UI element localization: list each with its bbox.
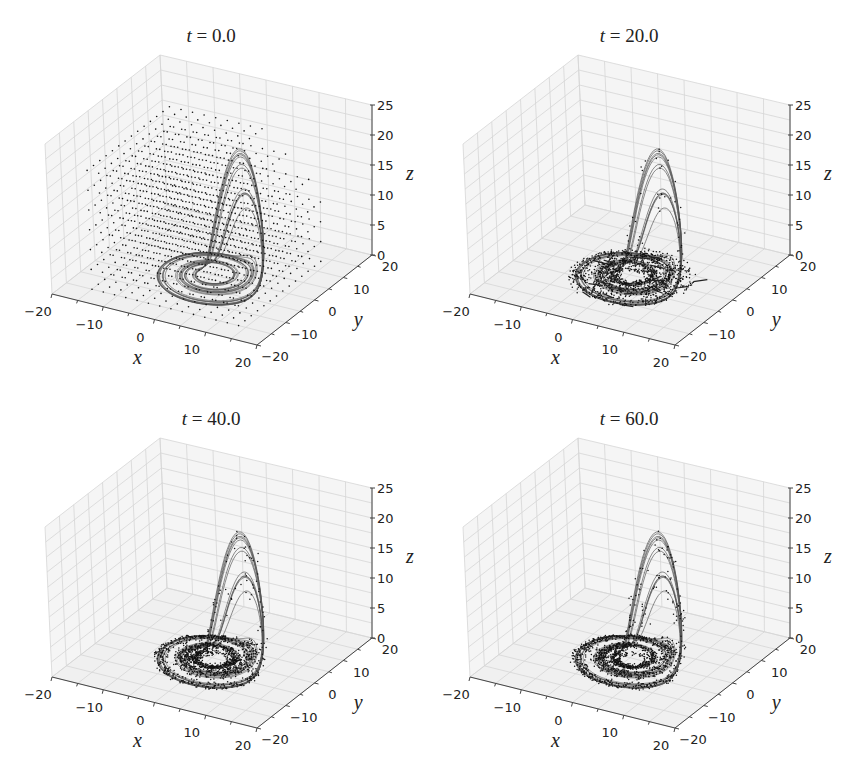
particle-point — [676, 292, 678, 294]
particle-point — [163, 650, 165, 652]
particle-point — [587, 676, 589, 678]
particle-point — [617, 290, 619, 292]
particle-point — [667, 646, 669, 648]
particle-point — [198, 646, 200, 648]
particle-point — [662, 649, 664, 651]
particle-point — [216, 287, 218, 289]
particle-point — [236, 220, 238, 222]
x-minor-tick — [495, 300, 496, 303]
particle-point — [586, 643, 588, 645]
x-tick-mark — [256, 728, 257, 732]
particle-point — [652, 653, 654, 655]
particle-point — [670, 577, 672, 579]
particle-point — [181, 219, 183, 221]
particle-point — [610, 651, 612, 653]
particle-point — [200, 152, 202, 154]
particle-point — [158, 175, 160, 177]
particle-point — [190, 668, 192, 670]
particle-point — [187, 194, 189, 196]
particle-point — [172, 295, 174, 297]
particle-point — [673, 268, 675, 270]
particle-point — [660, 643, 662, 645]
particle-point — [179, 173, 181, 175]
particle-point — [226, 204, 228, 206]
particle-point — [157, 226, 159, 228]
particle-point — [160, 662, 162, 664]
particle-point — [655, 643, 657, 645]
particle-point — [233, 297, 235, 299]
particle-point — [608, 669, 610, 671]
z-tick-label: 5 — [377, 601, 385, 616]
particle-point — [214, 240, 216, 242]
particle-point — [233, 219, 235, 221]
particle-point — [188, 651, 190, 653]
particle-point — [582, 267, 584, 269]
particle-point — [183, 220, 185, 222]
particle-point — [221, 635, 223, 637]
particle-point — [206, 672, 208, 674]
particle-point — [215, 640, 217, 642]
particle-point — [266, 168, 268, 170]
particle-point — [192, 657, 194, 659]
particle-point — [183, 643, 185, 645]
particle-point — [630, 288, 632, 290]
particle-point — [207, 643, 209, 645]
particle-point — [639, 265, 641, 267]
particle-point — [162, 228, 164, 230]
particle-point — [641, 293, 643, 295]
particle-point — [205, 649, 207, 651]
particle-point — [613, 666, 615, 668]
particle-point — [620, 661, 622, 663]
particle-point — [648, 291, 650, 293]
particle-point — [214, 234, 216, 236]
particle-point — [232, 278, 234, 280]
particle-point — [268, 215, 270, 217]
particle-point — [207, 652, 209, 654]
particle-point — [651, 660, 653, 662]
particle-point — [251, 237, 253, 239]
particle-point — [207, 239, 209, 241]
particle-point — [208, 207, 210, 209]
particle-point — [656, 653, 658, 655]
particle-point — [672, 602, 674, 604]
particle-point — [232, 199, 234, 201]
particle-point — [226, 276, 228, 278]
particle-point — [614, 663, 616, 665]
particle-point — [240, 254, 242, 256]
figure: −20−1001020x−20−1001020y0510152025zt = 0… — [0, 0, 852, 779]
particle-point — [636, 286, 638, 288]
particle-point — [249, 230, 251, 232]
particle-point — [688, 269, 690, 271]
particle-point — [614, 654, 616, 656]
particle-point — [86, 170, 88, 172]
particle-point — [637, 667, 639, 669]
particle-point — [577, 271, 579, 273]
particle-point — [218, 666, 220, 668]
particle-point — [229, 650, 231, 652]
particle-point — [577, 278, 579, 280]
particle-point — [215, 648, 217, 650]
particle-point — [143, 262, 145, 264]
particle-point — [654, 685, 656, 687]
particle-point — [221, 203, 223, 205]
particle-point — [296, 228, 298, 230]
particle-point — [642, 300, 644, 302]
particle-point — [631, 255, 633, 257]
particle-point — [660, 648, 662, 650]
particle-point — [649, 673, 651, 675]
particle-point — [656, 575, 658, 577]
particle-point — [649, 282, 651, 284]
particle-point — [186, 241, 188, 243]
particle-point — [149, 185, 151, 187]
particle-point — [642, 688, 644, 690]
particle-point — [248, 242, 250, 244]
particle-point — [233, 259, 235, 261]
particle-point — [663, 644, 665, 646]
y-tick-mark — [704, 706, 708, 707]
particle-point — [140, 216, 142, 218]
particle-point — [177, 193, 179, 195]
particle-point — [189, 201, 191, 203]
particle-point — [170, 216, 172, 218]
particle-point — [125, 245, 127, 247]
particle-point — [595, 660, 597, 662]
